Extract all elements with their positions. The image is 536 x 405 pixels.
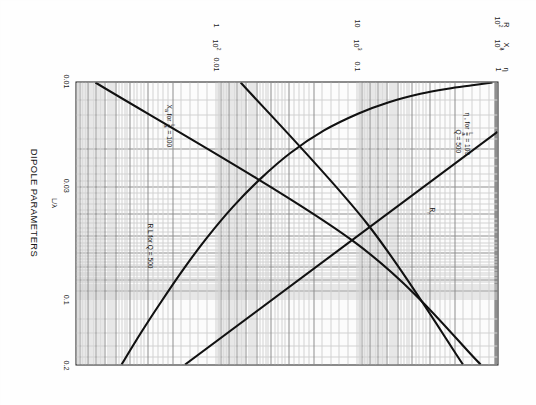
x-tick-label: 0.03 [61,178,70,192]
eta-label-fraction: L a [460,132,473,135]
curve-layer [76,82,497,364]
dipole-parameters-figure: η , for L a = 100 Q = 500 Xa for L a = 1… [0,0,536,405]
curve-2 [185,131,497,364]
screenshot-canvas: η , for L a = 100 Q = 500 Xa for L a = 1… [0,0,536,405]
eta-label-lead: η , for [464,112,471,129]
eta-frac-numerator: L [467,132,473,135]
annotation-rl: R L for Q = 500 [145,223,152,268]
xa-label-subscript: a [163,108,169,111]
x-tick-label: 0.2 [61,360,70,370]
annotation-q: Q = 500 [453,129,460,153]
plot-area: η , for L a = 100 Q = 500 Xa for L a = 1… [75,81,498,365]
rr-label-symbol: R [428,207,435,212]
xa-label-mid: for [166,113,173,121]
x-tick-label: 0.01 [61,74,70,88]
x-axis-label: L/λ [49,0,58,405]
xa-label-tail: = 100 [166,130,173,147]
y-tick-label: 10 [353,0,362,27]
eta-label-tail: = 100 [464,138,471,155]
y-tick-label: 1 [212,0,221,27]
rr-label-subscript: r [426,212,432,214]
xa-label-fraction: L a [162,124,175,127]
xa-frac-denominator: a [162,124,169,127]
annotation-xa: Xa for L a = 100 [162,104,175,147]
curve-4 [240,82,462,364]
xa-frac-numerator: L [169,124,175,127]
x-tick-label: 0.1 [61,294,70,304]
annotation-rr: Rr [425,207,434,214]
annotation-eta: η , for L a = 100 [460,112,473,155]
y-scale-header-3: R [501,0,510,27]
figure-title: DIPOLE PARAMETERS [28,0,39,405]
